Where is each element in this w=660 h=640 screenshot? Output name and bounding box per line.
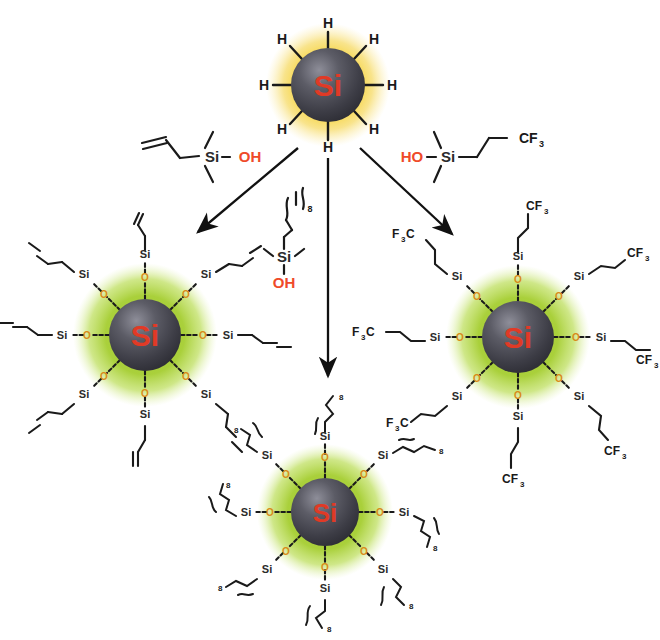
- core-label-si: Si: [313, 498, 338, 528]
- o-label-w: O: [456, 332, 464, 343]
- reagent-right-ho-label: HO: [401, 148, 424, 165]
- o-label-s: O: [514, 390, 522, 401]
- h-label-n: H: [323, 15, 333, 31]
- f3c-tail-nw: C: [406, 227, 415, 241]
- shell-si-w: Si: [430, 331, 440, 343]
- cf3-label-e: CF: [636, 353, 652, 367]
- h-label-sw: H: [277, 121, 287, 137]
- cf3-label-se: CF: [604, 444, 620, 458]
- alkyl-sub-e: 8: [433, 544, 438, 553]
- reagent-left-oh-label: OH: [239, 148, 262, 165]
- f3c-tail-w: C: [366, 325, 375, 339]
- cf3-label-s: CF: [502, 472, 518, 486]
- o-label-ne: O: [555, 291, 563, 302]
- f3c-label-nw: F: [392, 227, 399, 241]
- alkyl-sub-s: 8: [327, 625, 332, 634]
- h-label-e: H: [387, 77, 397, 93]
- reactant-hydride-particle: Si H H H H H H H H: [259, 15, 397, 155]
- o-label-s: O: [141, 388, 149, 399]
- h-label-ne: H: [369, 31, 379, 47]
- o-label-n: O: [321, 452, 329, 463]
- shell-si-s: Si: [140, 408, 150, 420]
- f3c-label-w: F: [352, 325, 359, 339]
- cf3-sub-n: 3: [544, 207, 549, 216]
- h-label-nw: H: [277, 31, 287, 47]
- reaction-scheme-figure: Si H H H H H H H H Si OH: [0, 0, 660, 640]
- o-label-n: O: [514, 274, 522, 285]
- cf3-sub-ne: 3: [645, 254, 650, 263]
- shell-si-sw: Si: [452, 390, 462, 402]
- core-label-si: Si: [314, 69, 342, 102]
- o-label-nw: O: [473, 291, 481, 302]
- shell-si-e: Si: [596, 331, 606, 343]
- shell-si-ne: Si: [378, 449, 388, 461]
- reagent-center-oh-label: OH: [273, 274, 296, 291]
- shell-si-se: Si: [574, 390, 584, 402]
- shell-si-s: Si: [513, 410, 523, 422]
- core-label-si: Si: [504, 321, 532, 354]
- h-label-se: H: [369, 121, 379, 137]
- reagent-center-repeat-subscript: 8: [307, 204, 312, 214]
- shell-si-e: Si: [223, 329, 233, 341]
- h-label-s: H: [323, 139, 333, 155]
- reagent-center-si-label: Si: [277, 248, 291, 265]
- o-label-w: O: [83, 330, 91, 341]
- cf3-sub-se: 3: [622, 452, 627, 461]
- shell-si-w: Si: [241, 506, 251, 518]
- o-label-n: O: [141, 272, 149, 283]
- h-label-w: H: [259, 77, 269, 93]
- o-label-nw: O: [282, 469, 290, 480]
- shell-si-ne: Si: [574, 270, 584, 282]
- shell-si-sw: Si: [262, 563, 272, 575]
- alkyl-sub-ne: 8: [439, 447, 444, 456]
- o-label-w: O: [266, 507, 274, 518]
- o-label-ne: O: [182, 289, 190, 300]
- o-label-e: O: [572, 332, 580, 343]
- cf3-sub-s: 3: [520, 480, 525, 489]
- alkyl-sub-n: 8: [339, 393, 344, 402]
- reagent-left-si-label: Si: [205, 148, 219, 165]
- shell-si-se: Si: [378, 563, 388, 575]
- cf3-label-ne: CF: [627, 246, 643, 260]
- o-label-se: O: [182, 371, 190, 382]
- cf3-label-n: CF: [526, 199, 542, 213]
- core-label-si: Si: [131, 319, 159, 352]
- shell-si-nw: Si: [79, 268, 89, 280]
- o-label-s: O: [321, 562, 329, 573]
- o-label-sw: O: [100, 371, 108, 382]
- o-label-e: O: [199, 330, 207, 341]
- o-label-se: O: [360, 546, 368, 557]
- alkyl-sub-w: 8: [226, 481, 231, 490]
- shell-si-se: Si: [201, 388, 211, 400]
- f3c-tail-sw: C: [400, 416, 409, 430]
- reagent-right-cf-subscript: 3: [539, 139, 544, 149]
- o-label-ne: O: [360, 469, 368, 480]
- o-label-e: O: [376, 507, 384, 518]
- o-label-nw: O: [100, 289, 108, 300]
- o-label-sw: O: [473, 373, 481, 384]
- shell-si-nw: Si: [452, 270, 462, 282]
- alkyl-sub-se: 8: [409, 602, 414, 611]
- shell-si-w: Si: [57, 329, 67, 341]
- shell-si-sw: Si: [79, 388, 89, 400]
- shell-si-ne: Si: [201, 268, 211, 280]
- shell-si-nw: Si: [262, 449, 272, 461]
- shell-si-s: Si: [320, 582, 330, 594]
- o-label-se: O: [555, 373, 563, 384]
- shell-si-e: Si: [399, 506, 409, 518]
- alkyl-sub-nw: 8: [234, 426, 239, 435]
- f3c-label-sw: F: [386, 416, 393, 430]
- alkyl-sub-sw: 8: [218, 584, 223, 593]
- o-label-sw: O: [282, 546, 290, 557]
- cf3-sub-e: 3: [654, 361, 659, 370]
- reagent-right-si-label: Si: [441, 148, 455, 165]
- reagent-right-cf-label: CF: [519, 130, 538, 146]
